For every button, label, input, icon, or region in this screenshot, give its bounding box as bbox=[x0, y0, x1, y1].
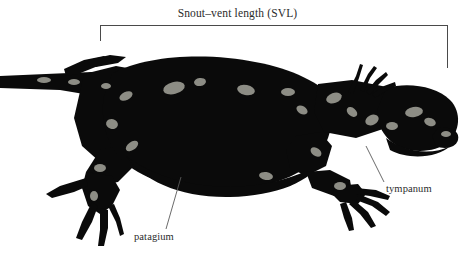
figure-container: Snout–vent length (SVL) bbox=[0, 0, 475, 263]
hind-toe-shape-4 bbox=[108, 204, 124, 236]
patagium-label: patagium bbox=[134, 232, 174, 243]
lizard-illustration bbox=[0, 0, 475, 263]
lizard-silhouette bbox=[0, 55, 458, 246]
hind-toe-shape-1 bbox=[46, 178, 88, 198]
hind-toe-shape-2 bbox=[76, 202, 98, 240]
tympanum-leader-line bbox=[366, 146, 384, 182]
hind-toe-shape-3 bbox=[98, 208, 108, 246]
tympanum-label: tympanum bbox=[386, 184, 432, 195]
